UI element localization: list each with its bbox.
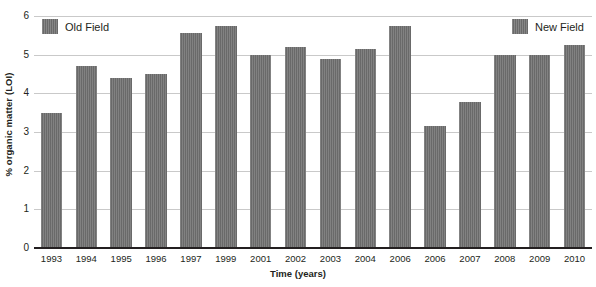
legend-new-field: New Field bbox=[512, 19, 584, 34]
legend-swatch-new-field-icon bbox=[512, 19, 528, 34]
x-tick-label: 2008 bbox=[487, 252, 522, 266]
bar bbox=[355, 49, 376, 248]
bar bbox=[424, 126, 445, 248]
x-tick-label: 1999 bbox=[208, 252, 243, 266]
legend-label-old-field: Old Field bbox=[65, 21, 109, 33]
bar bbox=[76, 66, 97, 248]
legend-swatch-old-field-icon bbox=[42, 19, 58, 34]
x-tick-label: 2009 bbox=[522, 252, 557, 266]
x-tick-label: 2004 bbox=[348, 252, 383, 266]
bar bbox=[494, 55, 515, 248]
bar bbox=[529, 55, 550, 248]
x-tick-label: 2006 bbox=[383, 252, 418, 266]
bar bbox=[564, 45, 585, 248]
bar bbox=[320, 59, 341, 248]
y-tick-label: 5 bbox=[23, 50, 29, 60]
y-axis-title-text: % organic matter (LOI) bbox=[3, 72, 14, 176]
x-tick-label: 2003 bbox=[313, 252, 348, 266]
x-tick-label: 1996 bbox=[139, 252, 174, 266]
x-axis-line bbox=[34, 247, 592, 249]
x-tick-label: 2010 bbox=[557, 252, 592, 266]
y-tick-label: 2 bbox=[23, 166, 29, 176]
y-axis-title: % organic matter (LOI) bbox=[0, 0, 16, 248]
x-tick-label: 1997 bbox=[174, 252, 209, 266]
y-tick-label: 0 bbox=[23, 243, 29, 253]
x-tick-label: 1995 bbox=[104, 252, 139, 266]
legend-label-new-field: New Field bbox=[535, 21, 584, 33]
x-tick-labels: 1993199419951996199719992001200220032004… bbox=[34, 252, 592, 268]
legend-old-field: Old Field bbox=[42, 19, 109, 34]
bar bbox=[110, 78, 131, 248]
bar bbox=[180, 33, 201, 248]
x-tick-label: 1993 bbox=[34, 252, 69, 266]
x-tick-label: 2007 bbox=[453, 252, 488, 266]
x-axis-title: Time (years) bbox=[0, 268, 596, 279]
x-tick-label: 2002 bbox=[278, 252, 313, 266]
bar bbox=[389, 26, 410, 248]
bar bbox=[145, 74, 166, 248]
bar-chart: % organic matter (LOI) 0123456 199319941… bbox=[0, 0, 596, 287]
bars-layer bbox=[34, 16, 592, 248]
y-tick-label: 4 bbox=[23, 88, 29, 98]
y-tick-label: 3 bbox=[23, 127, 29, 137]
bar bbox=[285, 47, 306, 248]
bar bbox=[215, 26, 236, 248]
x-tick-label: 2006 bbox=[418, 252, 453, 266]
y-tick-label: 6 bbox=[23, 11, 29, 21]
y-tick-label: 1 bbox=[23, 204, 29, 214]
x-tick-label: 2001 bbox=[243, 252, 278, 266]
bar bbox=[250, 55, 271, 248]
bar bbox=[41, 113, 62, 248]
x-tick-label: 1994 bbox=[69, 252, 104, 266]
bar bbox=[459, 102, 480, 248]
